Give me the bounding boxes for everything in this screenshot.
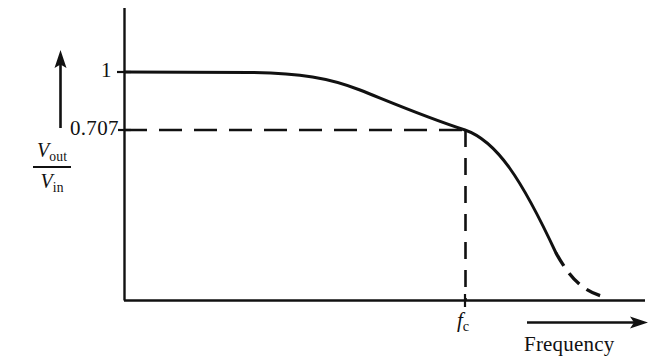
fraction-denominator: Vin (33, 170, 71, 194)
x-axis-label: Frequency (524, 334, 614, 355)
y-tick-label-one: 1 (101, 60, 112, 81)
fraction-vout-vin: Vout Vin (33, 140, 71, 194)
y-tick-label-0707: 0.707 (70, 118, 119, 139)
x-tick-label-fc: fc (457, 310, 469, 333)
y-axis-label: Vout Vin (33, 140, 71, 194)
plot-canvas (0, 0, 655, 363)
fc-subscript: c (463, 318, 470, 334)
low-pass-filter-response-figure: 1 0.707 Vout Vin fc Frequency (0, 0, 655, 363)
numerator-subscript: out (49, 149, 67, 164)
x-axis-direction-arrow (527, 317, 648, 329)
denominator-subscript: in (53, 180, 64, 195)
numerator-variable: V (37, 139, 49, 161)
response-curve-solid (125, 72, 556, 253)
fraction-numerator: Vout (33, 140, 71, 164)
fraction-bar (33, 166, 71, 168)
denominator-variable: V (41, 170, 53, 192)
y-axis-direction-arrow (55, 50, 67, 128)
response-curve-dashed-tail (556, 253, 601, 296)
